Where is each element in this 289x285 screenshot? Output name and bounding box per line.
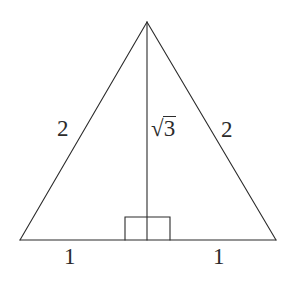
- label-base-right: 1: [213, 245, 225, 268]
- label-base-left: 1: [64, 245, 76, 268]
- radicand-value: 3: [163, 116, 177, 140]
- geometry-figure: 2 2 √3 1 1: [0, 0, 289, 285]
- label-side-right: 2: [221, 118, 233, 141]
- label-altitude: √3: [151, 116, 176, 140]
- triangle-drawing: [0, 0, 289, 285]
- radical-expression: √3: [151, 116, 176, 140]
- triangle-side-left: [20, 22, 147, 240]
- label-side-left: 2: [57, 117, 69, 140]
